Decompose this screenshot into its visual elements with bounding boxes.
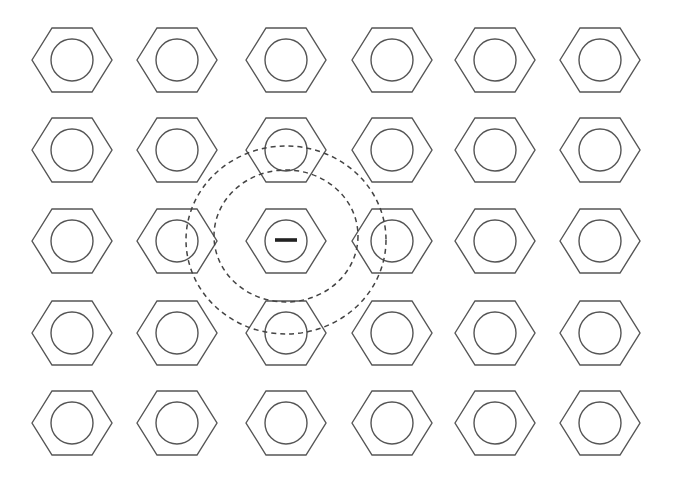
- hexagon-outline: [560, 28, 640, 92]
- hex-cell: [32, 391, 112, 455]
- hexagon-outline: [455, 209, 535, 273]
- hex-cell: [137, 118, 217, 182]
- inner-circle: [474, 312, 516, 354]
- hex-cell: [455, 209, 535, 273]
- inner-circle: [51, 129, 93, 171]
- hexagon-outline: [32, 209, 112, 273]
- inner-circle: [371, 402, 413, 444]
- hexagon-outline: [32, 391, 112, 455]
- hex-cell: [137, 28, 217, 92]
- hex-cell: [246, 391, 326, 455]
- inner-circle: [371, 220, 413, 262]
- hexagon-outline: [246, 118, 326, 182]
- hex-cell: [560, 118, 640, 182]
- hex-cell: [246, 28, 326, 92]
- hex-cell: [455, 391, 535, 455]
- hexagon-outline: [560, 118, 640, 182]
- hex-cell: [32, 209, 112, 273]
- inner-circle: [156, 129, 198, 171]
- hexagon-outline: [246, 28, 326, 92]
- inner-circle: [156, 220, 198, 262]
- hex-cell: [137, 301, 217, 365]
- diagram-canvas: −: [0, 0, 675, 479]
- hex-cell: [560, 391, 640, 455]
- hexagon-outline: [560, 391, 640, 455]
- hex-cell: [560, 209, 640, 273]
- inner-circle: [474, 129, 516, 171]
- hexagon-outline: [137, 301, 217, 365]
- inner-circle: [579, 39, 621, 81]
- inner-circle: [156, 312, 198, 354]
- inner-circle: [371, 129, 413, 171]
- hex-cell: [560, 301, 640, 365]
- hexagon-outline: [246, 391, 326, 455]
- hex-cell: [32, 301, 112, 365]
- hexagon-outline: [455, 301, 535, 365]
- hex-cell: [352, 28, 432, 92]
- inner-circle: [265, 402, 307, 444]
- inner-circle: [474, 39, 516, 81]
- inner-circle: [579, 129, 621, 171]
- hex-lattice-diagram: [0, 0, 675, 479]
- hexagon-outline: [352, 391, 432, 455]
- hexagon-outline: [455, 391, 535, 455]
- inner-circle: [51, 39, 93, 81]
- hex-cell: [246, 118, 326, 182]
- inner-circle: [265, 39, 307, 81]
- hex-cell: [137, 209, 217, 273]
- hexagon-outline: [352, 118, 432, 182]
- hexagon-outline: [455, 28, 535, 92]
- hexagon-outline: [352, 301, 432, 365]
- charge-symbol-group: [275, 238, 297, 242]
- inner-circle: [579, 402, 621, 444]
- inner-circle: [51, 402, 93, 444]
- hexagon-outline: [352, 209, 432, 273]
- inner-circle: [371, 39, 413, 81]
- inner-circle: [265, 129, 307, 171]
- hexagon-outline: [352, 28, 432, 92]
- inner-circle: [156, 402, 198, 444]
- inner-circle: [371, 312, 413, 354]
- hex-cell: [137, 391, 217, 455]
- hex-cell: [352, 391, 432, 455]
- hexagon-outline: [32, 118, 112, 182]
- hex-cell: [32, 28, 112, 92]
- hexagon-outline: [32, 28, 112, 92]
- hexagon-outline: [137, 391, 217, 455]
- inner-circle: [156, 39, 198, 81]
- hexagon-outline: [560, 301, 640, 365]
- cell-grid: [32, 28, 640, 455]
- hex-cell: [352, 118, 432, 182]
- hexagon-outline: [32, 301, 112, 365]
- inner-circle: [51, 220, 93, 262]
- inner-circle: [51, 312, 93, 354]
- hex-cell: [455, 28, 535, 92]
- hex-cell: [455, 301, 535, 365]
- hexagon-outline: [137, 209, 217, 273]
- inner-circle: [579, 220, 621, 262]
- hex-cell: [352, 209, 432, 273]
- hex-cell: [352, 301, 432, 365]
- inner-circle: [474, 220, 516, 262]
- hexagon-outline: [455, 118, 535, 182]
- hex-cell: [455, 118, 535, 182]
- inner-dashed-boundary: [214, 170, 358, 302]
- hex-cell: [560, 28, 640, 92]
- inner-circle: [474, 402, 516, 444]
- hexagon-outline: [246, 301, 326, 365]
- hexagon-outline: [560, 209, 640, 273]
- hex-cell: [246, 301, 326, 365]
- hexagon-outline: [137, 28, 217, 92]
- hex-cell: [32, 118, 112, 182]
- minus-sign-icon: [275, 238, 297, 242]
- hexagon-outline: [137, 118, 217, 182]
- inner-circle: [579, 312, 621, 354]
